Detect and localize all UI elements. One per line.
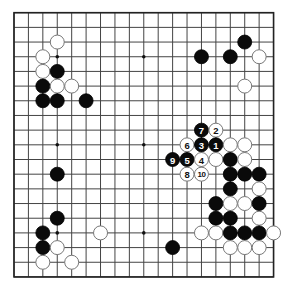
black-stone — [223, 226, 237, 240]
black-stone: 3 — [194, 138, 208, 152]
white-stone — [94, 226, 108, 240]
white-stone: 10 — [194, 167, 208, 181]
black-stone: 9 — [166, 153, 180, 167]
white-stone — [223, 197, 237, 211]
move-number: 3 — [199, 140, 204, 151]
black-stone — [223, 50, 237, 64]
star-point — [55, 231, 59, 235]
white-stone: 2 — [209, 123, 223, 137]
black-stone-disc — [209, 211, 223, 225]
black-stone-disc — [238, 167, 252, 181]
move-number: 1 — [213, 140, 219, 151]
white-stone — [223, 241, 237, 255]
white-stone — [267, 226, 281, 240]
black-stone-disc — [223, 167, 237, 181]
black-stone-disc — [36, 226, 50, 240]
black-stone: 5 — [180, 153, 194, 167]
black-stone-disc — [79, 94, 93, 108]
white-stone — [50, 241, 64, 255]
white-stone-disc — [238, 241, 252, 255]
black-stone — [252, 226, 266, 240]
white-stone — [209, 226, 223, 240]
black-stone-disc — [238, 35, 252, 49]
white-stone — [209, 153, 223, 167]
black-stone — [50, 211, 64, 225]
black-stone — [50, 167, 64, 181]
black-stone-disc — [50, 94, 64, 108]
black-stone-disc — [50, 167, 64, 181]
white-stone-disc — [94, 226, 108, 240]
white-stone — [194, 226, 208, 240]
white-stone — [65, 79, 79, 93]
white-stone — [238, 241, 252, 255]
black-stone-disc — [223, 50, 237, 64]
white-stone-disc — [209, 153, 223, 167]
white-stone-disc — [238, 197, 252, 211]
white-stone-disc — [65, 255, 79, 269]
black-stone — [79, 94, 93, 108]
white-stone-disc — [267, 226, 281, 240]
white-stone-disc — [252, 241, 266, 255]
star-point — [142, 143, 146, 147]
move-number: 5 — [184, 155, 190, 166]
black-stone-disc — [223, 226, 237, 240]
move-number: 2 — [213, 125, 218, 136]
star-point — [142, 55, 146, 59]
black-stone — [238, 167, 252, 181]
black-stone — [36, 79, 50, 93]
white-stone-disc — [252, 50, 266, 64]
black-stone-disc — [50, 211, 64, 225]
white-stone-disc — [36, 255, 50, 269]
white-stone-disc — [223, 197, 237, 211]
white-stone — [252, 211, 266, 225]
black-stone — [223, 153, 237, 167]
star-point — [55, 143, 59, 147]
white-stone-disc — [50, 35, 64, 49]
black-stone — [50, 94, 64, 108]
black-stone: 7 — [194, 123, 208, 137]
black-stone — [209, 197, 223, 211]
move-number: 6 — [184, 140, 189, 151]
white-stone — [65, 255, 79, 269]
white-stone — [238, 79, 252, 93]
star-point — [142, 231, 146, 235]
black-stone — [50, 64, 64, 78]
white-stone — [50, 35, 64, 49]
move-number: 7 — [199, 125, 204, 136]
white-stone-disc — [50, 79, 64, 93]
black-stone — [238, 35, 252, 49]
white-stone-disc — [194, 226, 208, 240]
white-stone — [238, 197, 252, 211]
white-stone-disc — [223, 241, 237, 255]
black-stone — [36, 241, 50, 255]
black-stone-disc — [194, 50, 208, 64]
black-stone-disc — [223, 153, 237, 167]
black-stone-disc — [252, 167, 266, 181]
white-stone — [36, 64, 50, 78]
black-stone-disc — [209, 197, 223, 211]
black-stone-disc — [238, 226, 252, 240]
white-stone-disc — [65, 79, 79, 93]
white-stone — [36, 50, 50, 64]
white-stone-disc — [36, 50, 50, 64]
black-stone — [223, 211, 237, 225]
black-stone-disc — [223, 182, 237, 196]
black-stone: 1 — [209, 138, 223, 152]
white-stone — [252, 50, 266, 64]
go-board: 72631954810 — [0, 0, 290, 291]
white-stone — [50, 79, 64, 93]
move-number: 4 — [199, 155, 205, 166]
white-stone: 8 — [180, 167, 194, 181]
white-stone — [36, 255, 50, 269]
black-stone — [194, 50, 208, 64]
black-stone-disc — [36, 79, 50, 93]
black-stone — [252, 197, 266, 211]
black-stone — [36, 226, 50, 240]
black-stone — [166, 241, 180, 255]
white-stone — [238, 153, 252, 167]
white-stone — [223, 138, 237, 152]
go-board-diagram: 72631954810 — [0, 0, 290, 291]
move-number: 8 — [184, 169, 189, 180]
white-stone — [238, 138, 252, 152]
black-stone-disc — [50, 64, 64, 78]
